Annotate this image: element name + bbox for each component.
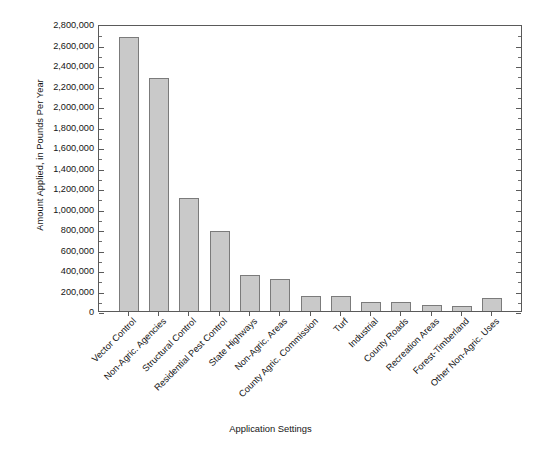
y-axis-minor-tick-right bbox=[518, 36, 521, 37]
plot-area bbox=[98, 25, 522, 312]
x-axis-tick-label: Structural Control bbox=[141, 316, 199, 374]
y-axis-major-tick bbox=[99, 67, 104, 68]
y-axis-minor-tick bbox=[99, 262, 102, 263]
bar bbox=[361, 302, 381, 311]
bar-chart-figure: Amount Applied, in Pounds Per Year 2,800… bbox=[0, 0, 541, 451]
y-axis-major-tick bbox=[99, 88, 104, 89]
x-axis-tick-mark bbox=[188, 312, 189, 316]
y-axis-major-tick-right bbox=[516, 293, 521, 294]
x-axis-tick-mark bbox=[310, 312, 311, 316]
y-axis-major-tick-right bbox=[516, 170, 521, 171]
bar bbox=[149, 78, 169, 311]
y-axis-tick-label: 2,200,000 bbox=[53, 82, 94, 92]
y-axis-tick-label: 1,400,000 bbox=[53, 164, 94, 174]
y-axis-major-tick bbox=[99, 231, 104, 232]
y-axis-major-tick-right bbox=[516, 47, 521, 48]
y-axis-major-tick bbox=[99, 293, 104, 294]
y-axis-tick-label: 1,600,000 bbox=[53, 143, 94, 153]
y-axis-minor-tick bbox=[99, 139, 102, 140]
bar bbox=[119, 37, 139, 311]
y-axis-minor-tick-right bbox=[518, 282, 521, 283]
y-axis-tick-labels: 2,800,0002,600,0002,400,0002,200,0002,00… bbox=[30, 25, 94, 312]
x-axis-tick-mark bbox=[219, 312, 220, 316]
bar-series bbox=[99, 26, 521, 311]
y-axis-minor-tick-right bbox=[518, 77, 521, 78]
y-axis-major-tick bbox=[99, 170, 104, 171]
y-axis-major-tick bbox=[99, 108, 104, 109]
y-axis-minor-tick bbox=[99, 180, 102, 181]
y-axis-minor-tick-right bbox=[518, 139, 521, 140]
bar bbox=[391, 302, 411, 311]
y-axis-minor-tick-right bbox=[518, 303, 521, 304]
bar bbox=[240, 275, 260, 311]
y-axis-major-tick bbox=[99, 272, 104, 273]
y-axis-major-tick-right bbox=[516, 211, 521, 212]
y-axis-minor-tick-right bbox=[518, 241, 521, 242]
y-axis-tick-label: 1,800,000 bbox=[53, 123, 94, 133]
y-axis-tick-label: 2,600,000 bbox=[53, 41, 94, 51]
x-axis-tick-labels: Vector ControlNon-Agric. AgenciesStructu… bbox=[98, 312, 522, 422]
y-axis-major-tick bbox=[99, 252, 104, 253]
bar bbox=[179, 198, 199, 311]
y-axis-major-tick bbox=[99, 149, 104, 150]
y-axis-tick-label: 2,800,000 bbox=[53, 20, 94, 30]
y-axis-minor-tick bbox=[99, 241, 102, 242]
x-axis-tick-mark bbox=[128, 312, 129, 316]
y-axis-minor-tick-right bbox=[518, 262, 521, 263]
bar bbox=[301, 296, 321, 311]
x-axis-tick-label: Forest-Timberland bbox=[411, 316, 471, 376]
x-axis-tick-label: Recreation Areas bbox=[384, 316, 441, 373]
bar bbox=[331, 296, 351, 311]
y-axis-minor-tick-right bbox=[518, 159, 521, 160]
y-axis-major-tick-right bbox=[516, 272, 521, 273]
y-axis-major-tick-right bbox=[516, 108, 521, 109]
x-axis-tick-label: Turf bbox=[331, 316, 349, 334]
y-axis-major-tick bbox=[99, 211, 104, 212]
y-axis-tick-label: 2,000,000 bbox=[53, 102, 94, 112]
y-axis-minor-tick bbox=[99, 36, 102, 37]
y-axis-major-tick-right bbox=[516, 252, 521, 253]
y-axis-minor-tick bbox=[99, 221, 102, 222]
x-axis-tick-mark bbox=[431, 312, 432, 316]
x-axis-title: Application Settings bbox=[0, 423, 541, 434]
x-axis-tick-mark bbox=[279, 312, 280, 316]
x-axis-tick-mark bbox=[400, 312, 401, 316]
y-axis-tick-label: 2,400,000 bbox=[53, 61, 94, 71]
x-axis-tick-mark bbox=[370, 312, 371, 316]
y-axis-major-tick-right bbox=[516, 190, 521, 191]
y-axis-minor-tick bbox=[99, 282, 102, 283]
y-axis-minor-tick-right bbox=[518, 118, 521, 119]
y-axis-tick-label: 200,000 bbox=[61, 287, 94, 297]
y-axis-major-tick-right bbox=[516, 67, 521, 68]
y-axis-minor-tick-right bbox=[518, 180, 521, 181]
y-axis-tick-label: 400,000 bbox=[61, 266, 94, 276]
y-axis-minor-tick-right bbox=[518, 98, 521, 99]
y-axis-minor-tick bbox=[99, 118, 102, 119]
y-axis-major-tick-right bbox=[516, 88, 521, 89]
y-axis-minor-tick bbox=[99, 77, 102, 78]
y-axis-tick-label: 1,200,000 bbox=[53, 184, 94, 194]
x-axis-tick-mark bbox=[461, 312, 462, 316]
bar bbox=[210, 231, 230, 311]
x-axis-tick-mark bbox=[340, 312, 341, 316]
y-axis-major-tick-right bbox=[516, 129, 521, 130]
x-axis-tick-mark bbox=[158, 312, 159, 316]
y-axis-minor-tick bbox=[99, 98, 102, 99]
y-axis-tick-label: 1,000,000 bbox=[53, 205, 94, 215]
y-axis-minor-tick bbox=[99, 57, 102, 58]
x-axis-tick-mark bbox=[491, 312, 492, 316]
y-axis-tick-label: 600,000 bbox=[61, 246, 94, 256]
y-axis-major-tick-right bbox=[516, 231, 521, 232]
bar bbox=[452, 306, 472, 311]
y-axis-minor-tick bbox=[99, 303, 102, 304]
y-axis-minor-tick bbox=[99, 200, 102, 201]
y-axis-tick-label: 0 bbox=[89, 307, 94, 317]
bar bbox=[482, 298, 502, 311]
x-axis-tick-label: Non-Agric. Areas bbox=[233, 316, 289, 372]
y-axis-major-tick bbox=[99, 47, 104, 48]
bar bbox=[422, 305, 442, 311]
y-axis-tick-label: 800,000 bbox=[61, 225, 94, 235]
y-axis-minor-tick-right bbox=[518, 57, 521, 58]
x-axis-tick-mark bbox=[249, 312, 250, 316]
y-axis-major-tick bbox=[99, 129, 104, 130]
